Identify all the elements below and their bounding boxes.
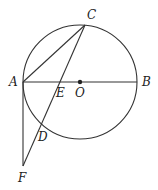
label-b: B (141, 75, 151, 89)
label-o: O (75, 86, 85, 100)
geometry-diagram: C A B E O D F (0, 0, 158, 190)
label-d: D (37, 130, 48, 144)
chord-ac (23, 25, 85, 82)
label-f: F (17, 171, 27, 185)
label-a: A (8, 75, 18, 89)
label-e: E (55, 86, 65, 100)
label-c: C (87, 8, 96, 22)
center-point-o (78, 80, 82, 84)
